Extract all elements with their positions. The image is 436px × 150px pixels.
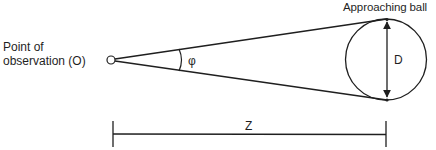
top-tangent-point [385, 18, 388, 21]
geometry-diagram: φ D Z [0, 0, 436, 150]
diameter-label: D [394, 53, 403, 67]
angle-label: φ [188, 54, 196, 68]
distance-label: Z [245, 119, 252, 133]
observation-point-icon [107, 56, 115, 64]
bottom-tangent-point [385, 98, 388, 101]
ball-circle [346, 19, 427, 100]
angle-arc [179, 49, 182, 71]
distance-line [113, 134, 386, 135]
